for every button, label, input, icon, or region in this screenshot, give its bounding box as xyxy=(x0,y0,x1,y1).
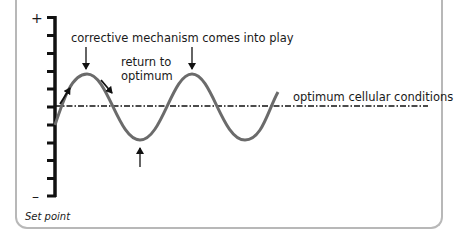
feedback-diagram: + – Set point corrective mechanism comes… xyxy=(0,0,454,244)
minus-sign: – xyxy=(32,188,39,204)
set-point-caption: Set point xyxy=(25,211,71,222)
corrective-label: corrective mechanism comes into play xyxy=(71,31,294,45)
y-axis xyxy=(47,16,56,197)
return-label-line1: return to xyxy=(121,55,171,69)
rising-arrow-icon xyxy=(60,88,70,104)
oscillation-curve xyxy=(55,74,278,140)
return-label-line2: optimum xyxy=(121,69,173,83)
plus-sign: + xyxy=(31,10,43,26)
optimum-label: optimum cellular conditions xyxy=(293,90,453,104)
